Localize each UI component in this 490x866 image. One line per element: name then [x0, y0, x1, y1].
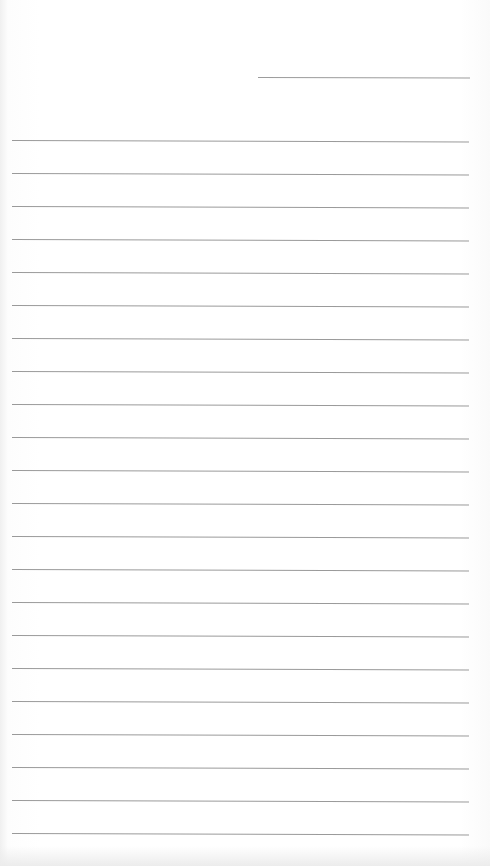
ruled-line — [12, 602, 469, 604]
ruled-line — [12, 635, 469, 637]
ruled-line — [12, 173, 469, 175]
ruled-line — [12, 800, 469, 802]
lined-paper-page — [0, 0, 490, 866]
ruled-line — [12, 503, 469, 505]
ruled-line — [12, 668, 469, 670]
ruled-line — [12, 701, 469, 703]
ruled-line — [12, 767, 469, 769]
ruled-line — [12, 437, 469, 439]
page-bottom-edge — [0, 846, 490, 866]
ruled-line — [12, 569, 469, 571]
header-name-line — [258, 77, 470, 79]
ruled-line — [12, 239, 469, 241]
ruled-line — [12, 734, 469, 736]
ruled-line — [12, 536, 469, 538]
ruled-line — [12, 470, 469, 472]
ruled-line — [12, 404, 469, 406]
ruled-line — [12, 272, 469, 274]
ruled-line — [12, 140, 469, 142]
ruled-line — [12, 371, 469, 373]
ruled-line — [12, 338, 469, 340]
ruled-line — [12, 305, 469, 307]
ruled-line — [12, 206, 469, 208]
ruled-line — [12, 833, 469, 835]
